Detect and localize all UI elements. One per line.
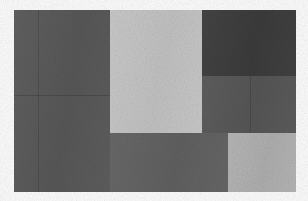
block-bottom-middle (110, 133, 228, 192)
seam-mid-right-vertical (250, 76, 251, 133)
figure-canvas (0, 0, 308, 201)
block-left-column (14, 10, 110, 192)
block-mid-right-band (202, 76, 296, 133)
block-top-right-dark (202, 10, 296, 76)
block-center-top-light (110, 10, 202, 133)
seam-left-vertical (38, 10, 39, 192)
seam-left-horizontal (14, 95, 110, 96)
block-bottom-right-light (228, 133, 296, 192)
